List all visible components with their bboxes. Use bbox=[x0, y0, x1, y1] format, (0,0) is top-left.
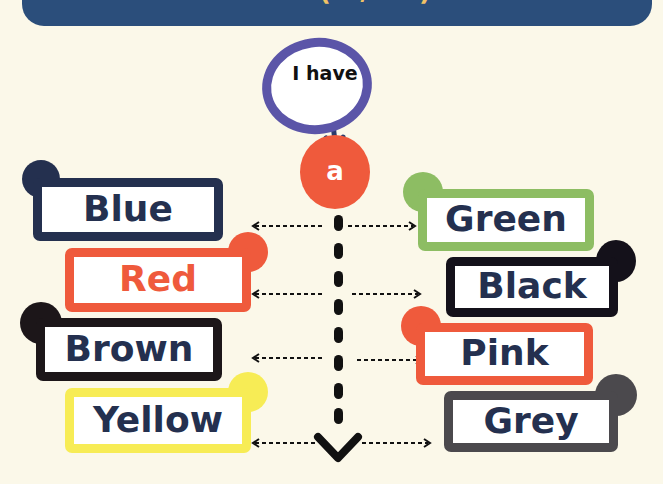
color-label-blue: Blue bbox=[42, 187, 214, 228]
color-card-green[interactable]: Green bbox=[418, 189, 594, 251]
color-card-blue[interactable]: Blue bbox=[33, 178, 223, 241]
color-label-grey: Grey bbox=[453, 399, 609, 440]
color-card-red[interactable]: Red bbox=[65, 248, 251, 312]
color-label-pink: Pink bbox=[425, 332, 584, 373]
color-card-yellow[interactable]: Yellow bbox=[65, 388, 251, 453]
color-card-black[interactable]: Black bbox=[446, 257, 618, 317]
color-label-yellow: Yellow bbox=[74, 398, 242, 439]
speech-bubble-text: I have bbox=[270, 62, 380, 84]
dashed-spine bbox=[334, 193, 343, 424]
color-label-red: Red bbox=[74, 258, 242, 299]
color-card-brown[interactable]: Brown bbox=[36, 318, 222, 381]
color-label-brown: Brown bbox=[45, 327, 213, 368]
chevron-down-icon bbox=[318, 437, 358, 458]
color-label-black: Black bbox=[455, 265, 609, 306]
color-card-pink[interactable]: Pink bbox=[416, 323, 593, 385]
color-label-green: Green bbox=[427, 198, 585, 239]
color-card-grey[interactable]: Grey bbox=[444, 391, 618, 452]
article-text: a bbox=[300, 156, 370, 186]
